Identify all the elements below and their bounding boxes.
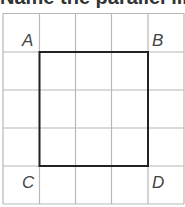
- label-b: B: [152, 31, 163, 50]
- grid-diagram: A B C D: [0, 0, 185, 207]
- label-a: A: [21, 31, 33, 50]
- label-d: D: [152, 173, 164, 192]
- square-abcd: [40, 52, 149, 166]
- label-c: C: [22, 173, 35, 192]
